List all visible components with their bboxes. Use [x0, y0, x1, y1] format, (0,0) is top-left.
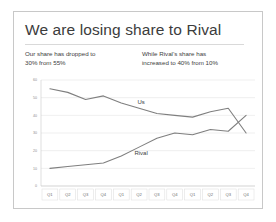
svg-text:10: 10 — [33, 167, 37, 171]
series-line-us — [50, 89, 246, 133]
svg-text:40: 40 — [33, 114, 37, 118]
svg-text:Q1: Q1 — [190, 192, 196, 197]
svg-text:Q4: Q4 — [101, 192, 107, 197]
svg-text:60: 60 — [33, 78, 37, 82]
share-trend-line-chart: 0102030405060 Q1Q2Q3Q4Q1Q2Q3Q4Q1Q2Q3Q4 U… — [19, 74, 259, 204]
svg-text:Q4: Q4 — [243, 192, 249, 197]
svg-text:Q2: Q2 — [136, 192, 142, 197]
chart-series-lines — [50, 89, 246, 169]
subtitle-right-line-1: While Rival’s share has — [142, 50, 257, 59]
svg-text:Q2: Q2 — [208, 192, 214, 197]
series-label-rival: Rival — [134, 150, 147, 156]
series-line-rival — [50, 115, 246, 168]
svg-text:Q4: Q4 — [172, 192, 178, 197]
page-title: We are losing share to Rival — [25, 21, 253, 39]
svg-text:Q3: Q3 — [154, 192, 160, 197]
subtitle-left-line-2: 30% from 55% — [25, 59, 137, 68]
svg-text:Q1: Q1 — [47, 192, 53, 197]
svg-text:Q2: Q2 — [65, 192, 71, 197]
subtitle-left-line-1: Our share has dropped to — [25, 50, 137, 59]
subtitle-right-line-2: increased to 40% from 10% — [142, 59, 257, 68]
svg-text:30: 30 — [33, 131, 37, 135]
svg-text:20: 20 — [33, 149, 37, 153]
chart-x-tick-cells — [42, 189, 254, 200]
chart-svg: 0102030405060 Q1Q2Q3Q4Q1Q2Q3Q4Q1Q2Q3Q4 U… — [19, 74, 259, 204]
slide-frame: We are losing share to Rival Our share h… — [13, 11, 263, 209]
chart-y-axis-labels: 0102030405060 — [33, 78, 37, 188]
title-divider — [25, 44, 244, 45]
subtitle-left-column: Our share has dropped to 30% from 55% — [25, 50, 137, 67]
svg-text:Q3: Q3 — [83, 192, 89, 197]
series-label-us: Us — [137, 99, 144, 105]
subtitle-right-column: While Rival’s share has increased to 40%… — [142, 50, 257, 67]
svg-text:50: 50 — [33, 96, 37, 100]
chart-gridlines — [41, 80, 255, 186]
svg-text:Q3: Q3 — [225, 192, 231, 197]
svg-text:Q1: Q1 — [118, 192, 124, 197]
svg-text:0: 0 — [35, 184, 37, 188]
